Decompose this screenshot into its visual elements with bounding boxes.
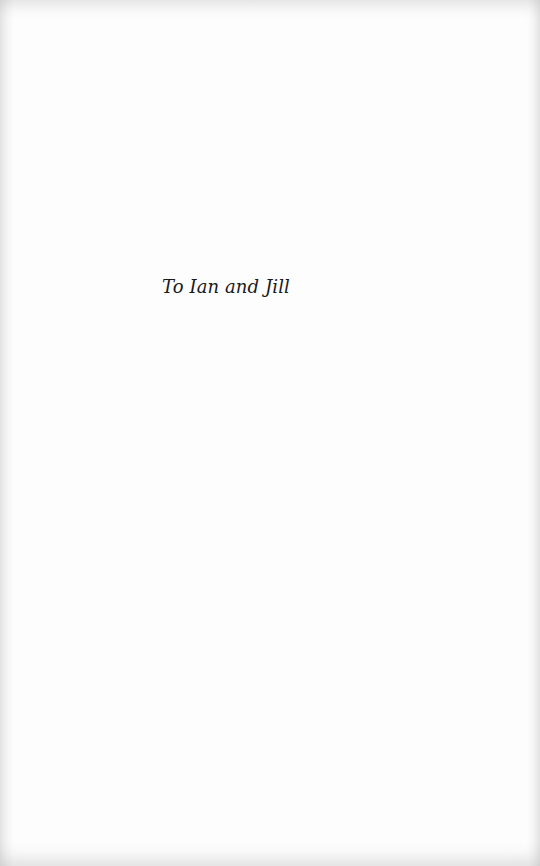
book-page: To Ian and Jill: [0, 0, 540, 866]
dedication-text: To Ian and Jill: [162, 276, 290, 297]
